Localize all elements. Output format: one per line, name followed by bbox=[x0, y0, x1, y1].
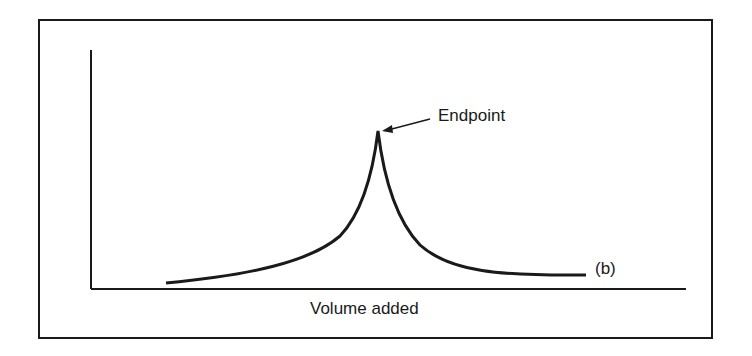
x-axis-label: Volume added bbox=[310, 299, 419, 319]
derivative-curve bbox=[166, 131, 586, 283]
curve-label: (b) bbox=[595, 259, 616, 279]
endpoint-arrow bbox=[382, 119, 430, 133]
endpoint-annotation: Endpoint bbox=[438, 106, 505, 126]
figure-frame bbox=[39, 20, 712, 338]
